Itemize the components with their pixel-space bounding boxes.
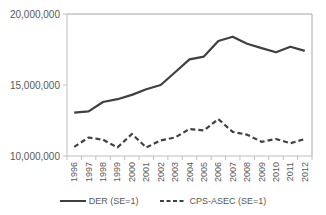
legend-item-der: DER (SE=1)	[60, 196, 139, 206]
legend-label-cps-asec: CPS-ASEC (SE=1)	[189, 196, 266, 206]
x-tick-label: 2007	[228, 162, 238, 182]
y-tick-label: 10,000,000	[10, 151, 60, 162]
x-tick-label: 2001	[141, 162, 151, 182]
x-tick-label: 2006	[213, 162, 223, 182]
line-chart: 10,000,00015,000,00020,000,0001996199719…	[0, 0, 326, 215]
y-tick-label: 20,000,000	[10, 9, 60, 20]
x-tick-label: 2004	[185, 162, 195, 182]
x-tick-label: 2011	[285, 162, 295, 181]
series-line-cps-asec	[74, 119, 305, 147]
x-tick-label: 2002	[156, 162, 166, 182]
x-tick-label: 2008	[242, 162, 252, 182]
x-tick-label: 1998	[98, 162, 108, 182]
x-tick-label: 2005	[199, 162, 209, 182]
chart-legend: DER (SE=1) CPS-ASEC (SE=1)	[0, 193, 326, 209]
x-tick-label: 2000	[127, 162, 137, 182]
legend-item-cps-asec: CPS-ASEC (SE=1)	[160, 196, 266, 206]
x-tick-label: 1997	[84, 162, 94, 182]
x-tick-label: 1996	[69, 162, 79, 182]
x-tick-label: 1999	[112, 162, 122, 182]
x-tick-label: 2003	[170, 162, 180, 182]
y-tick-label: 15,000,000	[10, 80, 60, 91]
solid-line-swatch-icon	[60, 198, 86, 204]
x-tick-label: 2009	[257, 162, 267, 182]
x-tick-label: 2012	[300, 162, 310, 182]
chart-plot: 10,000,00015,000,00020,000,0001996199719…	[0, 0, 326, 190]
legend-label-der: DER (SE=1)	[89, 196, 139, 206]
series-line-der	[74, 37, 305, 113]
dashed-line-swatch-icon	[160, 198, 186, 204]
x-tick-label: 2010	[271, 162, 281, 182]
